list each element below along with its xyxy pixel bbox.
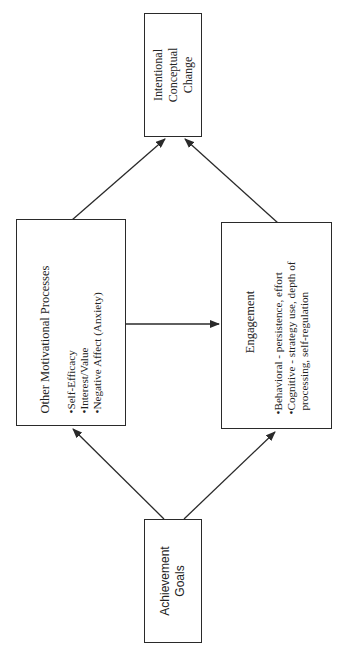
node-achievement-goals: Achievement Goals (144, 519, 202, 643)
bullet-item: •Cognitive - strategy use, depth of (285, 229, 298, 414)
bullet-item: •Interest/Value (78, 228, 91, 413)
label-line: Conceptual (166, 48, 181, 103)
node-label: Intentional Conceptual Change (151, 48, 196, 103)
node-other-motivational-processes: Other Motivational Processes •Self-Effic… (16, 219, 126, 426)
bullet-item: •Negative Affect (Anxiety) (91, 228, 104, 413)
arrow-goals-to-motivational (73, 429, 164, 519)
arrow-motivational-to-change (72, 139, 165, 220)
label-line: Achievement (158, 546, 173, 615)
arrow-goals-to-engagement (184, 432, 275, 519)
bullet-item: •Behavioral - persistence, effort (272, 229, 285, 414)
arrow-engagement-to-change (185, 139, 278, 223)
bullet-list: •Self-Efficacy •Interest/Value •Negative… (65, 228, 104, 413)
node-intentional-conceptual-change: Intentional Conceptual Change (144, 13, 202, 137)
node-title: Other Motivational Processes (38, 228, 53, 413)
bullet-item: •Self-Efficacy (65, 228, 78, 413)
node-title: Engagement (243, 229, 258, 414)
node-content: Engagement •Behavioral - persistence, ef… (243, 229, 311, 414)
bullet-item-continuation: processing, self-regulation (298, 229, 311, 414)
label-line: Intentional (151, 48, 166, 103)
node-content: Other Motivational Processes •Self-Effic… (38, 228, 104, 413)
bullet-list: •Behavioral - persistence, effort •Cogni… (272, 229, 311, 414)
label-line: Change (181, 48, 196, 103)
node-engagement: Engagement •Behavioral - persistence, ef… (221, 222, 332, 429)
label-line: Goals (173, 546, 188, 615)
node-label: Achievement Goals (158, 546, 188, 615)
diagram-canvas: Intentional Conceptual Change Other Moti… (0, 0, 348, 659)
